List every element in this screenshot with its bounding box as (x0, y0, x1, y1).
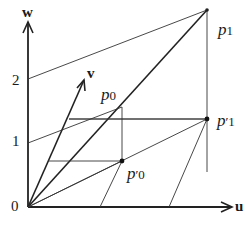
tick-label-1: 1 (12, 134, 20, 149)
v-vector-label: v (87, 66, 95, 81)
line-origin-p0prime (28, 161, 122, 207)
tick-label-0: 0 (11, 199, 19, 214)
point-p1prime (205, 117, 210, 122)
line-w2-p1 (28, 10, 207, 79)
line-w1-p0 (28, 107, 122, 143)
point-p0prime (120, 159, 125, 164)
diagram-canvas: w u v 0 1 2 p0 p1 p′1 p′0 (0, 0, 248, 229)
point-p1 (205, 8, 209, 12)
label-p0-prime: p′0 (127, 165, 145, 182)
line-p1prime-u (169, 119, 207, 207)
label-p0: p0 (101, 86, 116, 103)
w-axis-label: w (22, 5, 33, 20)
line-p0prime-u (100, 161, 122, 207)
v-vector (28, 80, 84, 207)
label-p1-prime: p′1 (217, 112, 235, 129)
u-axis-label: u (235, 199, 243, 214)
tick-label-2: 2 (12, 73, 20, 88)
label-p1: p1 (218, 21, 233, 38)
diagram-lines (0, 0, 248, 229)
